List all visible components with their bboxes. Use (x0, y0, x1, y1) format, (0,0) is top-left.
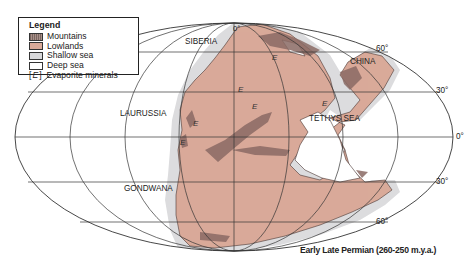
legend: Legend Mountains Lowlands Shallow sea De… (18, 17, 139, 75)
lat-label-60s: 60° (376, 217, 388, 226)
legend-item-evaporite: [E] Evaporite minerals (29, 71, 138, 81)
svg-text:E: E (180, 138, 186, 147)
mountains-swatch (29, 33, 43, 41)
shallow-sea-swatch (29, 52, 43, 60)
evaporite-symbol: [E] (29, 71, 43, 81)
lowlands-swatch (29, 42, 43, 50)
lat-label-equator: 0° (456, 132, 464, 141)
lat-label-30n: 30° (436, 86, 448, 95)
label-laurussia: LAURUSSIA (120, 109, 166, 118)
deep-sea-swatch (29, 62, 43, 70)
svg-text:E: E (252, 102, 258, 111)
legend-title: Legend (29, 21, 138, 31)
label-siberia: SIBERIA (185, 37, 217, 46)
lat-label-30s: 30° (436, 177, 448, 186)
svg-text:E: E (322, 99, 328, 108)
label-china: CHINA (350, 57, 375, 66)
svg-text:E: E (238, 85, 244, 94)
label-tethys-sea: TETHYS SEA (309, 114, 360, 123)
legend-item-mountains: Mountains (29, 32, 138, 42)
lat-label-60n: 60° (376, 44, 388, 53)
svg-text:E: E (272, 53, 278, 62)
label-gondwana: GONDWANA (124, 184, 173, 193)
svg-text:E: E (193, 119, 199, 128)
map-caption: Early Late Permian (260-250 m.y.a.) (300, 245, 436, 255)
lat-label-pole: 0° (233, 24, 240, 33)
